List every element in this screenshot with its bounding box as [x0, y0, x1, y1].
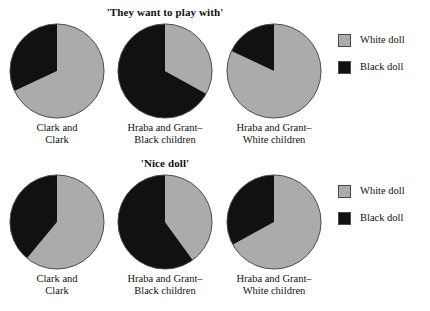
- pie-chart-clark-and-clark[interactable]: [8, 22, 106, 120]
- pie-label: Clark and Clark: [2, 273, 112, 296]
- pie-row: Clark and Clark Hraba and Grant– Black c…: [0, 22, 330, 157]
- pie-label: Hraba and Grant– Black children: [110, 122, 220, 145]
- pie-svg: [116, 22, 214, 120]
- pie-chart-hraba-grant-black-children[interactable]: [116, 22, 214, 120]
- pie-cell: Hraba and Grant– Black children: [110, 173, 220, 308]
- pie-label-line: Clark and: [2, 122, 112, 134]
- pie-cell: Clark and Clark: [2, 173, 112, 308]
- pie-chart-hraba-grant-white-children[interactable]: [225, 173, 323, 271]
- legend: White doll Black doll: [338, 32, 430, 86]
- legend-swatch-white-doll: [338, 34, 351, 47]
- pie-label-line: Hraba and Grant–: [110, 273, 220, 285]
- pie-label-line: Hraba and Grant–: [110, 122, 220, 134]
- legend-swatch-black-doll: [338, 212, 351, 225]
- panel-title: 'They want to play with': [0, 6, 330, 19]
- pie-label-line: White children: [219, 134, 329, 146]
- panel-nice-doll: 'Nice doll' Clark and Clark Hraba and Gr…: [0, 151, 430, 311]
- pie-cell: Clark and Clark: [2, 22, 112, 157]
- panel-title: 'Nice doll': [0, 157, 330, 170]
- pie-label-line: White children: [219, 285, 329, 297]
- legend-item-black-doll[interactable]: Black doll: [338, 59, 430, 75]
- pie-label-line: Clark: [2, 134, 112, 146]
- pie-label-line: Clark and: [2, 273, 112, 285]
- pie-svg: [8, 173, 106, 271]
- pie-cell: Hraba and Grant– Black children: [110, 22, 220, 157]
- doll-preference-figure: 'They want to play with' Clark and Clark…: [0, 0, 430, 311]
- panel-they-want-to-play-with: 'They want to play with' Clark and Clark…: [0, 0, 430, 160]
- legend-label: Black doll: [360, 61, 403, 73]
- pie-label: Hraba and Grant– White children: [219, 122, 329, 145]
- legend-swatch-black-doll: [338, 61, 351, 74]
- pie-cell: Hraba and Grant– White children: [219, 22, 329, 157]
- pie-svg: [116, 173, 214, 271]
- pie-chart-hraba-grant-white-children[interactable]: [225, 22, 323, 120]
- legend-label: White doll: [360, 185, 405, 197]
- legend-item-black-doll[interactable]: Black doll: [338, 210, 430, 226]
- pie-label-line: Hraba and Grant–: [219, 122, 329, 134]
- pie-label-line: Black children: [110, 134, 220, 146]
- pie-label-line: Hraba and Grant–: [219, 273, 329, 285]
- legend-label: Black doll: [360, 212, 403, 224]
- legend-label: White doll: [360, 34, 405, 46]
- pie-svg: [225, 173, 323, 271]
- pie-label-line: Black children: [110, 285, 220, 297]
- pie-label: Clark and Clark: [2, 122, 112, 145]
- legend-item-white-doll[interactable]: White doll: [338, 32, 430, 48]
- pie-row: Clark and Clark Hraba and Grant– Black c…: [0, 173, 330, 308]
- pie-label-line: Clark: [2, 285, 112, 297]
- legend: White doll Black doll: [338, 183, 430, 237]
- legend-swatch-white-doll: [338, 185, 351, 198]
- pie-cell: Hraba and Grant– White children: [219, 173, 329, 308]
- pie-chart-hraba-grant-black-children[interactable]: [116, 173, 214, 271]
- pie-svg: [8, 22, 106, 120]
- pie-chart-clark-and-clark[interactable]: [8, 173, 106, 271]
- legend-item-white-doll[interactable]: White doll: [338, 183, 430, 199]
- pie-svg: [225, 22, 323, 120]
- pie-label: Hraba and Grant– White children: [219, 273, 329, 296]
- pie-label: Hraba and Grant– Black children: [110, 273, 220, 296]
